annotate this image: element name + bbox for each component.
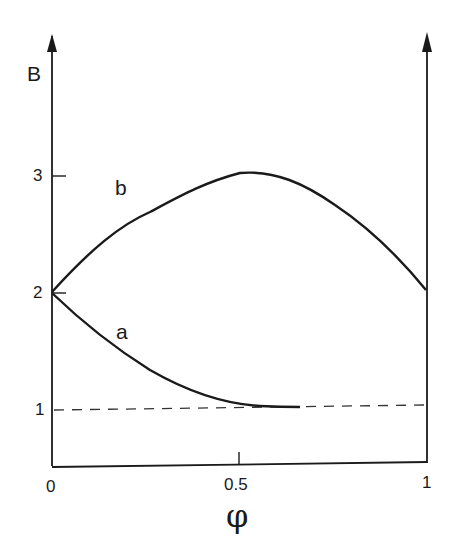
curve-a-label: a [116,321,128,342]
curve-b-label: b [115,177,127,198]
chart-plot [0,0,452,552]
curve-a [52,293,300,407]
y-tick-label-2: 2 [33,284,42,301]
x-tick-label-1: 1 [422,474,431,491]
y-axis-arrow-left-icon [47,34,57,52]
y-tick-label-1: 1 [35,401,44,418]
y-tick-label-3: 3 [33,167,42,184]
x-axis-label: φ [226,500,248,532]
reference-line-b1 [54,405,424,410]
curve-b [52,173,426,292]
x-tick-label-05: 0.5 [224,476,248,493]
y-axis-arrow-right-icon [422,32,432,52]
x-tick-label-0: 0 [46,478,55,495]
y-axis-label: B [27,63,41,84]
